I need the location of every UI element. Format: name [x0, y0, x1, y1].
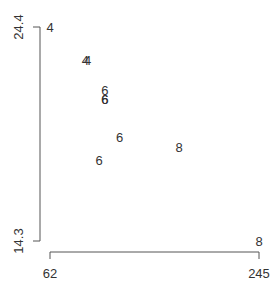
data-point-label: 8: [255, 234, 262, 249]
data-point-label: 6: [101, 83, 108, 98]
x-axis: [50, 252, 259, 259]
y-axis: [33, 27, 40, 241]
data-point-label: 6: [116, 130, 123, 145]
data-point-label: 4: [46, 20, 53, 35]
data-point-label: 4: [84, 53, 91, 68]
y-tick-max: 24.4: [11, 14, 26, 39]
data-labels: 6646868446: [46, 20, 262, 249]
y-tick-min: 14.3: [11, 228, 26, 253]
x-tick-max: 245: [248, 266, 270, 281]
x-tick-min: 62: [43, 266, 57, 281]
data-point-label: 6: [95, 153, 102, 168]
scatter-plot: 24.4 14.3 62 245 6646868446: [0, 0, 279, 294]
data-point-label: 8: [175, 140, 182, 155]
